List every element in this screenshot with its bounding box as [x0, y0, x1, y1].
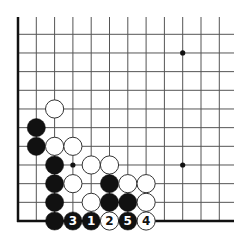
white-stone — [82, 156, 100, 174]
black-stone — [46, 175, 64, 193]
go-board: 31254 — [0, 0, 251, 245]
move-number-label: 5 — [124, 214, 132, 228]
white-stone — [137, 175, 155, 193]
white-stone-icon — [100, 156, 118, 174]
white-stone — [46, 137, 64, 155]
black-stone — [46, 212, 64, 230]
star-point-icon — [70, 162, 75, 167]
white-stone: 2 — [100, 212, 118, 230]
black-stone — [27, 137, 45, 155]
black-stone — [100, 175, 118, 193]
white-stone-icon — [119, 175, 137, 193]
black-stone-icon — [119, 193, 137, 211]
white-stone-icon — [82, 156, 100, 174]
black-stone — [100, 193, 118, 211]
white-stone — [46, 100, 64, 118]
black-stone-icon — [46, 212, 64, 230]
white-stone: 4 — [137, 212, 155, 230]
move-number-label: 2 — [105, 214, 113, 228]
black-stone: 1 — [82, 212, 100, 230]
white-stone-icon — [64, 175, 82, 193]
black-stone — [119, 193, 137, 211]
black-stone-icon — [27, 137, 45, 155]
white-stone-icon — [137, 175, 155, 193]
move-number-label: 1 — [87, 214, 95, 228]
black-stone: 5 — [119, 212, 137, 230]
black-stone-icon — [46, 175, 64, 193]
white-stone-icon — [64, 137, 82, 155]
black-stone-icon — [46, 156, 64, 174]
black-stone-icon — [100, 175, 118, 193]
white-stone-icon — [137, 193, 155, 211]
star-point-icon — [180, 50, 185, 55]
move-number-label: 4 — [142, 214, 150, 228]
star-point-icon — [180, 162, 185, 167]
white-stone — [119, 175, 137, 193]
black-stone — [27, 119, 45, 137]
white-stone — [137, 193, 155, 211]
black-stone — [46, 156, 64, 174]
black-stone-icon — [27, 119, 45, 137]
black-stone-icon — [46, 193, 64, 211]
white-stone — [64, 175, 82, 193]
white-stone — [100, 156, 118, 174]
black-stone: 3 — [64, 212, 82, 230]
white-stone-icon — [46, 137, 64, 155]
white-stone — [64, 137, 82, 155]
black-stone-icon — [100, 193, 118, 211]
white-stone-icon — [82, 193, 100, 211]
white-stone-icon — [46, 100, 64, 118]
move-number-label: 3 — [69, 214, 77, 228]
white-stone — [82, 193, 100, 211]
black-stone — [46, 193, 64, 211]
